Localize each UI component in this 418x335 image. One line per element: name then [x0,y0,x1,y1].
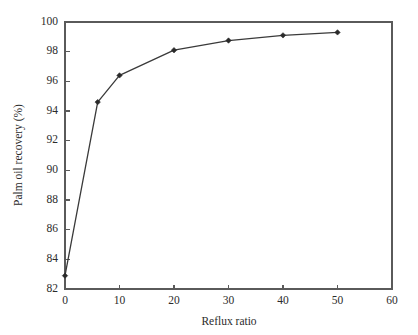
x-axis-title: Reflux ratio [201,315,256,327]
plot-frame [65,22,392,289]
x-axis-ticks: 0102030405060 [62,285,398,307]
x-tick-label: 0 [62,294,68,306]
figure-container: 828486889092949698100 0102030405060 Refl… [0,0,418,335]
x-tick-label: 60 [386,294,398,306]
x-tick-label: 30 [223,294,235,306]
data-point-marker [62,273,67,278]
series-line-palm-oil-recovery [65,32,338,275]
data-point-marker [335,30,340,35]
data-point-marker [226,38,231,43]
data-point-marker [280,33,285,38]
y-tick-label: 100 [41,15,59,27]
data-series-layer [62,30,340,279]
x-tick-label: 20 [168,294,180,306]
y-tick-label: 98 [47,44,59,56]
x-tick-label: 50 [332,294,344,306]
y-tick-label: 92 [47,133,59,145]
y-tick-label: 86 [47,222,59,234]
y-tick-label: 84 [47,252,59,264]
y-tick-label: 90 [47,163,59,175]
y-tick-label: 88 [47,193,59,205]
x-tick-label: 10 [114,294,126,306]
y-tick-label: 96 [47,74,59,86]
line-chart: 828486889092949698100 0102030405060 Refl… [0,0,418,335]
data-point-marker [171,47,176,52]
y-tick-label: 94 [47,104,59,116]
x-tick-label: 40 [277,294,289,306]
y-axis-title: Palm oil recovery (%) [12,104,25,206]
y-tick-label: 82 [47,282,59,294]
